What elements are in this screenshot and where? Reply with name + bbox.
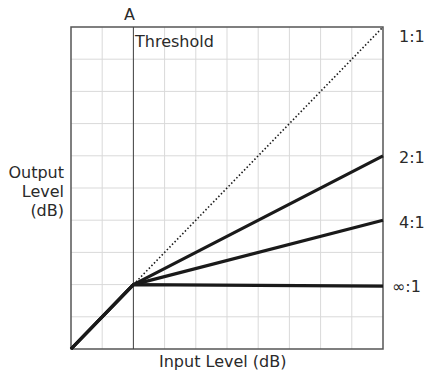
threshold-label: Threshold (135, 34, 214, 50)
y-axis-label-line-1: Output (0, 163, 64, 182)
ratio-label-inf-1: ∞:1 (392, 279, 421, 295)
ratio-label-4-1: 4:1 (399, 215, 425, 231)
y-axis-label: Output Level (dB) (0, 163, 64, 220)
threshold-marker-label: A (124, 7, 135, 23)
y-axis-label-line-3: (dB) (0, 201, 64, 220)
ratio-label-1-1: 1:1 (399, 29, 425, 45)
y-axis-label-line-2: Level (0, 182, 64, 201)
x-axis-label: Input Level (dB) (159, 354, 286, 370)
compressor-transfer-diagram (0, 0, 431, 377)
ratio-label-2-1: 2:1 (399, 150, 425, 166)
